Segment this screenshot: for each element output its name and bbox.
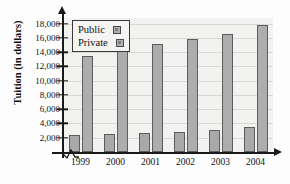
x-axis-tick-label: 2001 bbox=[131, 157, 171, 167]
legend-label-private: Private bbox=[78, 37, 108, 48]
y-axis-tick-label: 16,000 bbox=[14, 33, 60, 43]
x-axis-line bbox=[52, 152, 275, 154]
bar-private-2001 bbox=[152, 44, 163, 152]
bar-public-2001 bbox=[139, 133, 150, 152]
x-axis-tick-label: 1999 bbox=[61, 157, 101, 167]
tuition-bar-chart: Tuition (in dollars) 2,0004,0006,0008,00… bbox=[0, 0, 290, 184]
bar-public-2000 bbox=[104, 134, 115, 152]
legend-swatch-public bbox=[113, 26, 121, 34]
y-axis-arrow-icon bbox=[58, 6, 66, 14]
y-axis-tick-mark bbox=[57, 37, 68, 38]
y-axis-tick-label: 10,000 bbox=[14, 76, 60, 86]
chart-legend: Public Private bbox=[72, 20, 130, 52]
gridline bbox=[63, 52, 273, 53]
x-axis-tick-label: 2004 bbox=[236, 157, 276, 167]
y-axis-tick-label: 14,000 bbox=[14, 47, 60, 57]
y-axis-tick-mark bbox=[57, 80, 68, 81]
y-axis-tick-mark bbox=[57, 137, 68, 138]
y-axis-tick-label: 8,000 bbox=[14, 90, 60, 100]
y-axis-tick-label: 18,000 bbox=[14, 19, 60, 29]
bar-private-2000 bbox=[117, 51, 128, 152]
gridline bbox=[63, 95, 273, 96]
y-axis-tick-labels: 2,0004,0006,0008,00010,00012,00014,00016… bbox=[14, 0, 60, 184]
x-axis-tick-label: 2003 bbox=[201, 157, 241, 167]
y-axis-tick-mark bbox=[57, 109, 68, 110]
bar-private-1999 bbox=[82, 56, 93, 152]
x-axis-tick-labels: 199920002001200220032004 bbox=[63, 157, 273, 179]
y-axis-tick-label: 2,000 bbox=[14, 133, 60, 143]
y-axis-tick-mark bbox=[57, 52, 68, 53]
x-axis-tick-label: 2002 bbox=[166, 157, 206, 167]
y-axis-tick-label: 4,000 bbox=[14, 118, 60, 128]
bar-public-2002 bbox=[174, 132, 185, 152]
bar-public-2003 bbox=[209, 130, 220, 152]
gridline bbox=[63, 109, 273, 110]
y-axis-tick-mark bbox=[57, 94, 68, 95]
bar-private-2002 bbox=[187, 39, 198, 152]
gridline bbox=[63, 138, 273, 139]
gridline bbox=[63, 81, 273, 82]
legend-label-public: Public bbox=[78, 24, 105, 35]
legend-item-private: Private bbox=[78, 36, 124, 49]
y-axis-tick-label: 12,000 bbox=[14, 61, 60, 71]
legend-swatch-private bbox=[116, 39, 124, 47]
gridline bbox=[63, 66, 273, 67]
bar-private-2004 bbox=[257, 25, 268, 152]
bar-public-2004 bbox=[244, 127, 255, 152]
x-axis-tick-label: 2000 bbox=[96, 157, 136, 167]
y-axis-tick-mark bbox=[57, 66, 68, 67]
legend-item-public: Public bbox=[78, 23, 124, 36]
bar-private-2003 bbox=[222, 34, 233, 152]
x-axis-arrow-icon bbox=[274, 148, 282, 156]
y-axis-tick-label: 6,000 bbox=[14, 104, 60, 114]
gridline bbox=[63, 123, 273, 124]
y-axis-tick-mark bbox=[57, 123, 68, 124]
y-axis-tick-mark bbox=[57, 23, 68, 24]
